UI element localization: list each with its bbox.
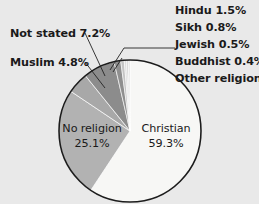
label-no-religion-value: 25.1% <box>74 137 110 150</box>
label-no-religion-name: No religion <box>62 122 121 135</box>
label-hindu: Hindu 1.5% <box>175 4 246 17</box>
label-muslim: Muslim 4.8% <box>10 56 89 69</box>
label-christian-value: 59.3% <box>148 137 184 150</box>
label-christian-name: Christian <box>142 122 191 135</box>
label-jewish: Jewish 0.5% <box>174 38 249 51</box>
pie-chart-canvas: Hindu 1.5% Sikh 0.8% Jewish 0.5% Buddhis… <box>0 0 259 204</box>
label-sikh: Sikh 0.8% <box>175 21 236 34</box>
pie-chart-figure: Hindu 1.5% Sikh 0.8% Jewish 0.5% Buddhis… <box>0 0 259 204</box>
label-other-religion: Other religion 0.4% <box>175 72 259 85</box>
label-buddhist: Buddhist 0.4% <box>175 55 259 68</box>
label-not-stated: Not stated 7.2% <box>10 27 110 40</box>
